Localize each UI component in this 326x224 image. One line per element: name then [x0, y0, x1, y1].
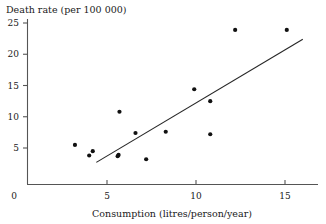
y-axis-title: Death rate (per 100 000) — [6, 4, 127, 15]
origin-tick-label: 0 — [11, 191, 17, 201]
data-point — [144, 157, 148, 161]
data-point — [285, 28, 289, 32]
x-axis-title: Consumption (litres/person/year) — [92, 208, 252, 219]
data-point — [117, 110, 121, 114]
data-point — [233, 28, 237, 32]
y-tick-label: 25 — [8, 18, 20, 28]
data-point — [91, 149, 95, 153]
data-point — [116, 153, 120, 157]
data-point — [208, 99, 212, 103]
data-point — [208, 132, 212, 136]
y-tick-label: 15 — [8, 81, 20, 91]
x-tick-label: 10 — [190, 191, 202, 201]
x-tick-label: 15 — [279, 191, 291, 201]
y-tick-label: 10 — [8, 112, 20, 122]
data-point — [73, 143, 77, 147]
y-tick-label: 5 — [13, 143, 19, 153]
y-tick-label: 20 — [8, 49, 20, 59]
scatter-plot-figure: Death rate (per 100 000) 510152025 51015… — [0, 0, 326, 224]
data-point — [133, 131, 137, 135]
data-point — [192, 87, 196, 91]
data-point — [164, 130, 168, 134]
x-tick-label: 5 — [104, 191, 110, 201]
data-point — [87, 153, 91, 157]
plot-background — [0, 0, 326, 224]
